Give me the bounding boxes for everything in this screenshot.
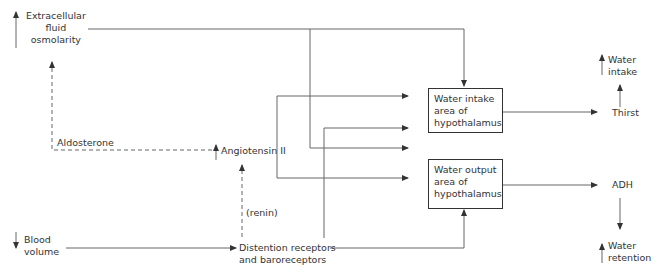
label-line: Water: [608, 240, 651, 252]
node-thirst: Thirst: [612, 107, 639, 119]
label-line: Water: [608, 54, 637, 66]
label-line: intake: [608, 66, 637, 78]
node-renin: (renin): [246, 207, 278, 219]
node-water-retention: Water retention: [608, 240, 651, 264]
node-blood-volume: Blood volume: [24, 234, 59, 258]
node-ecf-osmolarity: Extracellular fluid osmolarity: [26, 10, 86, 46]
node-adh: ADH: [612, 179, 633, 191]
label-line: retention: [608, 252, 651, 264]
label-line: area of: [434, 105, 502, 117]
label-line: hypothalamus: [434, 117, 502, 129]
label-line: volume: [24, 246, 59, 258]
box-water-output-area: Water output area of hypothalamus: [428, 159, 503, 209]
label-line: hypothalamus: [434, 188, 502, 200]
box-water-intake-area: Water intake area of hypothalamus: [428, 88, 503, 133]
label-line: fluid: [26, 22, 86, 34]
label-line: Extracellular: [26, 10, 86, 22]
label-line: Distention receptors: [239, 242, 336, 254]
label-line: and baroreceptors: [239, 254, 336, 266]
label-line: Water output: [434, 164, 502, 176]
node-water-intake: Water intake: [608, 54, 637, 78]
label-line: Water intake: [434, 93, 502, 105]
node-aldosterone: Aldosterone: [57, 137, 114, 149]
label-line: osmolarity: [26, 34, 86, 46]
label-line: Blood: [24, 234, 59, 246]
node-angiotensin: Angiotensin II: [221, 145, 286, 157]
node-receptors: Distention receptors and baroreceptors: [239, 242, 336, 266]
label-line: area of: [434, 176, 502, 188]
